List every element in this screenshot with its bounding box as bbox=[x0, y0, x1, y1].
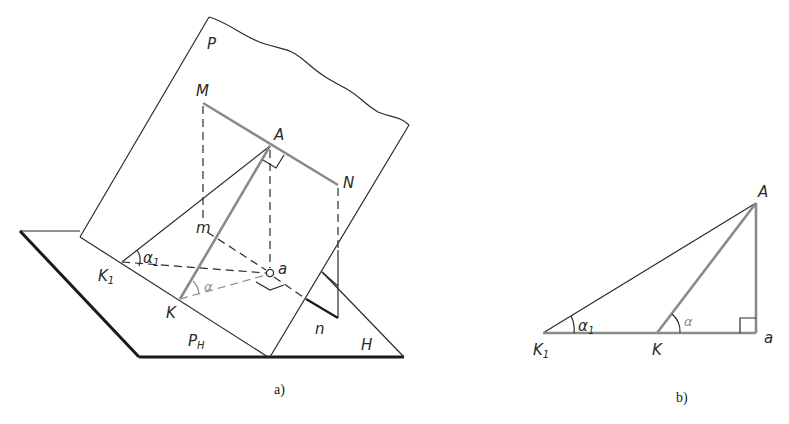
label-k1: K1 bbox=[98, 267, 114, 286]
projection-an-dashed bbox=[274, 277, 306, 299]
label-plane-h: H bbox=[361, 336, 372, 354]
plane-p-right-edge bbox=[270, 125, 409, 357]
label-alpha-b: α bbox=[684, 314, 693, 329]
label-a-lower: a bbox=[278, 260, 287, 278]
label-alpha: α bbox=[204, 279, 213, 294]
figure-b: A a K1 K α1 α b) bbox=[533, 183, 773, 406]
right-angle-mark-a-lower bbox=[256, 282, 284, 290]
right-angle-mark-a bbox=[263, 155, 284, 168]
caption-b: b) bbox=[676, 390, 688, 406]
label-k-b: K bbox=[652, 341, 663, 359]
line-k-a-b bbox=[657, 203, 756, 333]
plane-p-left-edge bbox=[80, 17, 209, 237]
caption-a: a) bbox=[274, 382, 285, 398]
intersection-segment bbox=[322, 272, 338, 286]
diagram-canvas: P M A N m a n K1 K α1 α PH H a) A a K1 K… bbox=[0, 0, 789, 424]
figure-a: P M A N m a n K1 K α1 α PH H a) bbox=[20, 17, 409, 398]
angle-arc-alpha1-b bbox=[571, 316, 574, 333]
line-mn bbox=[203, 103, 338, 185]
plane-h bbox=[20, 231, 404, 357]
label-m-upper: M bbox=[196, 82, 209, 100]
point-a-marker-icon bbox=[266, 269, 273, 276]
label-a-upper: A bbox=[273, 126, 284, 144]
label-a-upper-b: A bbox=[757, 183, 768, 201]
label-k: K bbox=[166, 304, 177, 322]
right-angle-mark-b bbox=[740, 318, 756, 333]
label-a-lower-b: a bbox=[764, 329, 773, 347]
line-k1-a bbox=[122, 146, 270, 262]
label-alpha1-b: α1 bbox=[578, 317, 594, 336]
projection-n-solid bbox=[306, 299, 338, 318]
label-k1-b: K1 bbox=[533, 341, 549, 360]
label-trace-ph: PH bbox=[188, 332, 205, 351]
line-k-a bbox=[180, 146, 270, 299]
label-alpha1: α1 bbox=[143, 249, 159, 268]
line-k1-a-b bbox=[543, 203, 756, 333]
angle-arc-alpha bbox=[193, 281, 199, 294]
label-m-lower: m bbox=[196, 219, 211, 237]
plane-h-left-edge bbox=[20, 231, 139, 357]
label-n-lower: n bbox=[315, 320, 325, 338]
plane-p-wavy-top-edge bbox=[209, 17, 409, 125]
trace-ph-line bbox=[80, 237, 268, 357]
label-plane-p: P bbox=[207, 35, 217, 53]
label-n-upper: N bbox=[343, 174, 354, 192]
angle-arc-alpha-b bbox=[672, 314, 680, 333]
